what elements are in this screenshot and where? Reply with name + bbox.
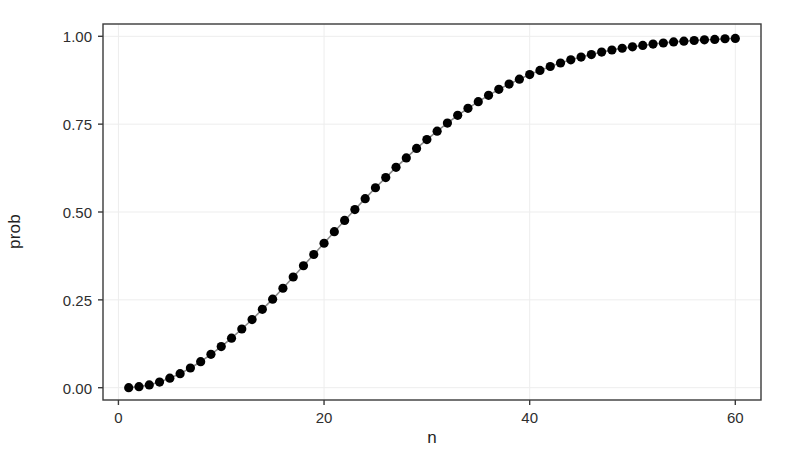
x-axis-tick-labels: 0204060 <box>0 0 797 463</box>
x-tick-label: 40 <box>500 409 560 426</box>
x-axis-title: n <box>103 428 761 448</box>
x-tick-label: 20 <box>294 409 354 426</box>
chart-figure: 0.000.250.500.751.00 0204060 prob n <box>0 0 797 463</box>
x-tick-label: 60 <box>705 409 765 426</box>
x-tick-label: 0 <box>88 409 148 426</box>
